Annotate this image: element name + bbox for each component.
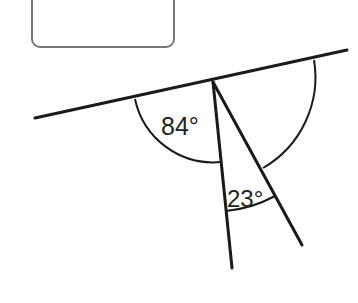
straight-line [35, 50, 347, 118]
angle-label-23: 23° [227, 185, 263, 212]
angle-label-84: 84° [161, 112, 199, 140]
arc-right-angle [263, 60, 315, 168]
answer-box[interactable] [32, 0, 174, 47]
angle-diagram: 84° 23° [0, 0, 358, 303]
